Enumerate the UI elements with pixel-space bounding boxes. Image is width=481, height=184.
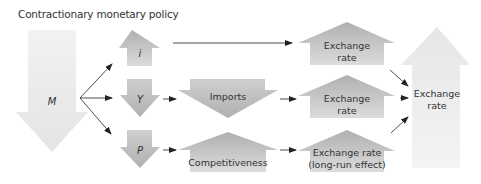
prices-label: P: [134, 145, 146, 157]
exchange-rate-1-line2: rate: [305, 52, 389, 64]
exchange-rate-2-line1: Exchange: [305, 93, 389, 105]
competitiveness-label: Competitiveness: [184, 157, 272, 169]
income-label: Y: [134, 94, 146, 106]
exchange-rate-2-label: Exchange rate: [305, 93, 389, 117]
exchange-rate-final-label: Exchange rate: [408, 88, 466, 112]
interest-label: i: [134, 48, 146, 60]
exchange-rate-1-line1: Exchange: [305, 40, 389, 52]
exchange-rate-3-label: Exchange rate (long-run effect): [300, 147, 394, 171]
imports-label: Imports: [188, 91, 268, 103]
exchange-rate-final-line1: Exchange: [408, 88, 466, 100]
exchange-rate-3-line2: (long-run effect): [300, 159, 394, 171]
exchange-rate-2-line2: rate: [305, 105, 389, 117]
exchange-rate-3-line1: Exchange rate: [300, 147, 394, 159]
exchange-rate-1-label: Exchange rate: [305, 40, 389, 64]
money-label: M: [46, 96, 58, 108]
exchange-rate-final-line2: rate: [408, 100, 466, 112]
money-down-arrow: [16, 30, 88, 152]
